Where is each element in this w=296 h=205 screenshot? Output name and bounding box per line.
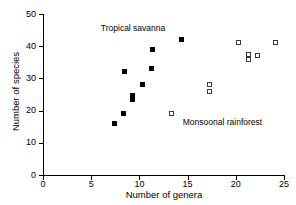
- data-point: [169, 111, 174, 116]
- data-point: [140, 82, 145, 87]
- data-point: [121, 111, 126, 116]
- x-axis-tick-label: 20: [224, 180, 248, 189]
- x-axis-tick-label: 5: [79, 180, 103, 189]
- data-point: [179, 37, 184, 42]
- data-point: [246, 57, 251, 62]
- data-point: [130, 93, 135, 98]
- x-axis-title: Number of genera: [43, 189, 285, 200]
- scatter-plot-figure: 010203040500510152025 Tropical savannaMo…: [0, 0, 296, 205]
- y-axis-tick: [39, 78, 43, 79]
- y-axis-tick: [39, 111, 43, 112]
- data-point: [236, 40, 241, 45]
- x-axis-tick-label: 10: [127, 180, 151, 189]
- data-point: [149, 66, 154, 71]
- data-point: [207, 82, 212, 87]
- data-point: [112, 121, 117, 126]
- data-point: [246, 52, 251, 57]
- y-axis-tick: [39, 143, 43, 144]
- data-point: [207, 89, 212, 94]
- y-axis-tick: [39, 46, 43, 47]
- x-axis-tick-label: 15: [176, 180, 200, 189]
- data-point: [255, 53, 260, 58]
- x-axis-line: [43, 175, 285, 176]
- x-axis-tick-label: 0: [31, 180, 55, 189]
- series-label: Monsoonal rainforest: [183, 117, 262, 127]
- data-point: [130, 97, 135, 102]
- y-axis-line: [43, 14, 44, 176]
- x-axis-tick-label: 25: [272, 180, 296, 189]
- y-axis-tick-label: 50: [14, 10, 36, 19]
- y-axis-tick: [39, 14, 43, 15]
- y-axis-title: Number of species: [10, 37, 21, 147]
- series-label: Tropical savanna: [101, 23, 165, 33]
- data-point: [122, 69, 127, 74]
- data-point: [150, 47, 155, 52]
- data-point: [273, 40, 278, 45]
- y-axis-tick-label: 0: [14, 171, 36, 180]
